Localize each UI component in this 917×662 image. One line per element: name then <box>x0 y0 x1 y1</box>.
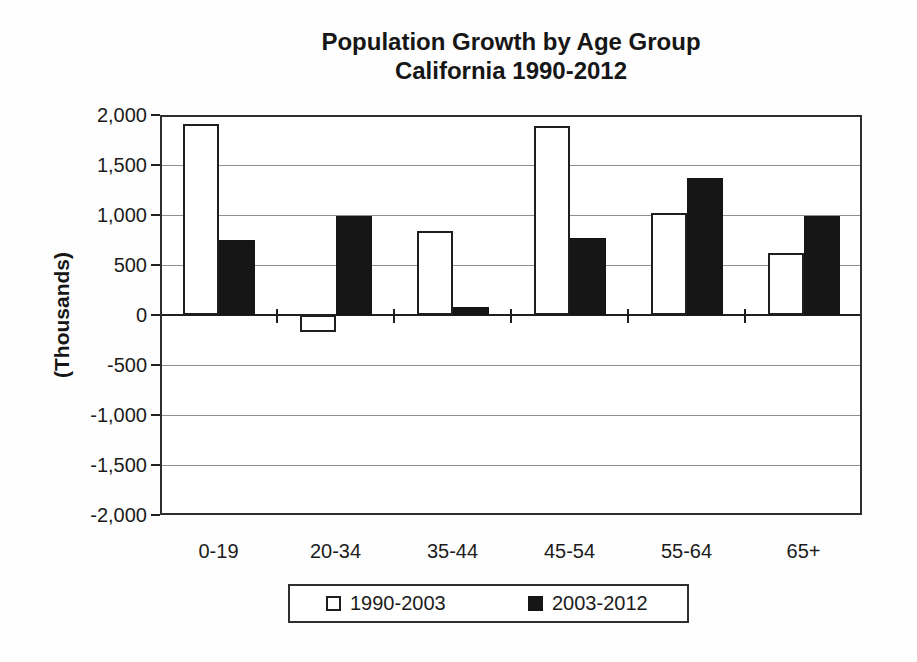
y-axis-tick-mark <box>151 164 160 166</box>
x-category-label: 45-54 <box>511 540 628 563</box>
gridline <box>162 215 860 216</box>
gridline <box>162 365 860 366</box>
legend-label-1990-2003: 1990-2003 <box>350 592 446 615</box>
category-boundary-tick <box>510 309 512 323</box>
gridline <box>162 465 860 466</box>
y-axis-tick-label: 0 <box>48 304 147 326</box>
chart-page: Population Growth by Age Group Californi… <box>0 0 917 662</box>
y-axis-tick-mark <box>151 364 160 366</box>
y-axis-tick-mark <box>151 464 160 466</box>
bar-1990-2003-20-34 <box>300 315 336 332</box>
bar-1990-2003-0-19 <box>183 124 219 315</box>
category-boundary-tick <box>627 309 629 323</box>
legend-swatch-2003-2012 <box>528 596 543 611</box>
category-boundary-tick <box>393 309 395 323</box>
bar-1990-2003-65+ <box>768 253 804 315</box>
legend-label-2003-2012: 2003-2012 <box>552 592 648 615</box>
chart-title: Population Growth by Age Group <box>160 27 862 56</box>
y-axis-tick-mark <box>151 414 160 416</box>
bar-1990-2003-55-64 <box>651 213 687 315</box>
legend-item-1990-2003: 1990-2003 <box>326 586 446 621</box>
category-boundary-tick <box>744 309 746 323</box>
y-axis-tick-label: -500 <box>48 354 147 376</box>
gridline <box>162 265 860 266</box>
x-category-label: 55-64 <box>628 540 745 563</box>
bar-2003-2012-55-64 <box>687 178 723 315</box>
y-axis-tick-mark <box>151 114 160 116</box>
bar-2003-2012-0-19 <box>219 240 255 315</box>
legend-item-2003-2012: 2003-2012 <box>528 586 648 621</box>
bar-2003-2012-35-44 <box>453 307 489 315</box>
y-axis-tick-mark <box>151 514 160 516</box>
y-axis-tick-mark <box>151 264 160 266</box>
y-axis-tick-label: 1,000 <box>48 204 147 226</box>
x-category-label: 0-19 <box>160 540 277 563</box>
legend: 1990-2003 2003-2012 <box>288 584 689 623</box>
y-axis-tick-mark <box>151 314 160 316</box>
y-axis-tick-label: -2,000 <box>48 504 147 526</box>
x-category-label: 20-34 <box>277 540 394 563</box>
chart-title-block: Population Growth by Age Group Californi… <box>160 27 862 85</box>
x-category-label: 65+ <box>745 540 862 563</box>
legend-swatch-1990-2003 <box>326 596 341 611</box>
bar-2003-2012-45-54 <box>570 238 606 315</box>
category-boundary-tick <box>276 309 278 323</box>
y-axis-tick-label: -1,500 <box>48 454 147 476</box>
bar-1990-2003-35-44 <box>417 231 453 315</box>
bar-2003-2012-65+ <box>804 216 840 315</box>
bar-2003-2012-20-34 <box>336 216 372 315</box>
plot-area <box>160 115 862 515</box>
y-axis-tick-mark <box>151 214 160 216</box>
bar-1990-2003-45-54 <box>534 126 570 315</box>
gridline <box>162 415 860 416</box>
y-axis-tick-label: 2,000 <box>48 104 147 126</box>
x-category-label: 35-44 <box>394 540 511 563</box>
y-axis-tick-label: 500 <box>48 254 147 276</box>
gridline <box>162 165 860 166</box>
chart-subtitle: California 1990-2012 <box>160 56 862 85</box>
y-axis-tick-label: 1,500 <box>48 154 147 176</box>
y-axis-tick-label: -1,000 <box>48 404 147 426</box>
